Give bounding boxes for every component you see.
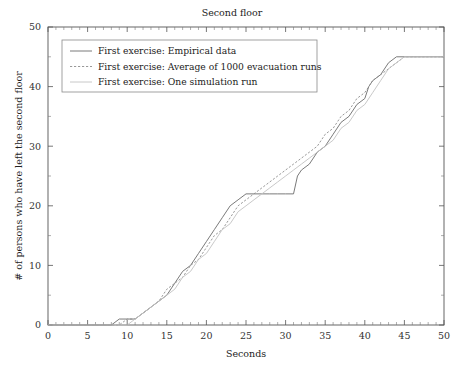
series-line: [48, 57, 444, 325]
y-tick-label: 40: [29, 81, 41, 92]
x-tick-label: 40: [359, 330, 371, 341]
data-series: [48, 57, 444, 325]
x-tick-label: 10: [121, 330, 133, 341]
x-tick-label: 20: [200, 330, 212, 341]
x-tick-label: 0: [45, 330, 51, 341]
y-tick-label: 10: [29, 260, 41, 271]
x-tick-label: 5: [85, 330, 91, 341]
x-tick-label: 25: [240, 330, 252, 341]
x-tick-label: 45: [398, 330, 410, 341]
y-tick-label: 30: [29, 141, 41, 152]
chart-title: Second floor: [202, 7, 263, 18]
x-tick-label: 30: [280, 330, 292, 341]
chart-legend: First exercise: Empirical dataFirst exer…: [62, 40, 322, 92]
x-tick-label: 50: [438, 330, 450, 341]
legend-label: First exercise: Empirical data: [98, 45, 237, 56]
x-tick-label: 35: [319, 330, 331, 341]
y-axis-title: # of persons who have left the second fl…: [13, 71, 24, 281]
y-tick-label: 20: [29, 200, 41, 211]
y-tick-label: 50: [29, 21, 41, 32]
series-line: [48, 57, 444, 325]
legend-label: First exercise: One simulation run: [98, 76, 258, 87]
x-axis-title: Seconds: [226, 348, 266, 359]
legend-label: First exercise: Average of 1000 evacuati…: [98, 61, 322, 72]
x-tick-label: 15: [161, 330, 173, 341]
series-line: [48, 57, 444, 325]
y-tick-label: 0: [35, 319, 41, 330]
chart-figure: Second floor # of persons who have left …: [0, 0, 464, 368]
plot-area: Second floor # of persons who have left …: [0, 0, 464, 368]
svg-text:# of persons who have left the: # of persons who have left the second fl…: [13, 71, 24, 281]
